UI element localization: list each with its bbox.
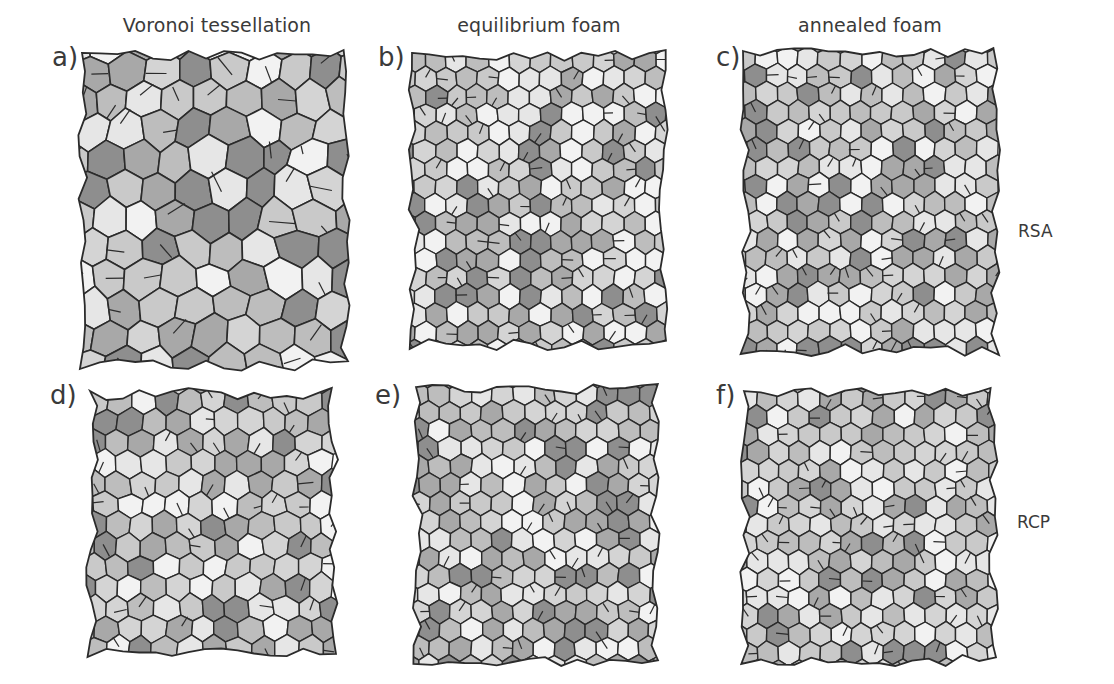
- panel-c-annealed-rsa: [735, 40, 1007, 362]
- column-title-voronoi: Voronoi tessellation: [67, 14, 367, 36]
- row-label-rsa: RSA: [1018, 221, 1053, 241]
- panel-f-annealed-rcp: [736, 380, 1004, 672]
- panel-e-equilibrium-rcp: [408, 376, 666, 672]
- foam-render-b: [404, 42, 674, 357]
- panel-d-voronoi-rcp: [82, 380, 344, 665]
- foam-render-f: [736, 380, 1004, 672]
- panel-a-voronoi-rsa: [74, 42, 356, 377]
- foam-render-c: [735, 40, 1007, 362]
- column-title-equilibrium-foam: equilibrium foam: [389, 14, 689, 36]
- panel-label-b: b): [378, 42, 405, 72]
- panel-label-e: e): [375, 380, 401, 410]
- foam-render-a: [74, 42, 356, 377]
- panel-b-equilibrium-rsa: [404, 42, 674, 357]
- column-title-annealed-foam: annealed foam: [720, 14, 1020, 36]
- foam-render-d: [82, 380, 344, 665]
- panel-label-f: f): [716, 380, 735, 410]
- row-label-rcp: RCP: [1017, 512, 1050, 532]
- panel-label-d: d): [50, 380, 77, 410]
- foam-render-e: [408, 376, 666, 672]
